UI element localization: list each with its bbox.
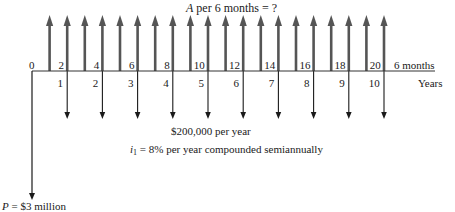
arrowhead-down-icon bbox=[381, 112, 387, 119]
arrowhead-up-icon bbox=[46, 15, 53, 26]
present-value-arrowhead-icon bbox=[29, 193, 35, 200]
receipts-title: A per 6 months = ? bbox=[186, 2, 277, 14]
year-tick-label: 6 bbox=[234, 77, 240, 89]
origin-label: 0 bbox=[29, 59, 35, 71]
arrowhead-up-icon bbox=[204, 15, 211, 26]
interest-rate-label: i1 = 8% per year compounded semiannually bbox=[130, 143, 323, 159]
arrowhead-up-icon bbox=[310, 15, 317, 26]
arrowhead-up-icon bbox=[328, 15, 335, 26]
arrowhead-up-icon bbox=[363, 15, 370, 26]
arrowhead-up-icon bbox=[169, 15, 176, 26]
arrowhead-up-icon bbox=[187, 15, 194, 26]
cash-flow-diagram: A per 6 months = ? 0 6 months Years $200… bbox=[0, 0, 455, 212]
year-tick-label: 9 bbox=[339, 77, 345, 89]
rate-text: = 8% per year compounded semiannually bbox=[137, 143, 323, 155]
year-tick-label: 3 bbox=[128, 77, 134, 89]
half-year-tick-label: 8 bbox=[164, 59, 170, 71]
arrowhead-down-icon bbox=[240, 112, 246, 119]
half-year-tick-label: 2 bbox=[59, 59, 65, 71]
arrowhead-up-icon bbox=[345, 15, 352, 26]
year-tick-label: 1 bbox=[58, 77, 64, 89]
year-tick-label: 4 bbox=[163, 77, 169, 89]
arrowhead-down-icon bbox=[311, 112, 317, 119]
expense-label: $200,000 per year bbox=[171, 125, 251, 137]
cash-flow-graphic bbox=[0, 0, 455, 212]
arrowhead-up-icon bbox=[81, 15, 88, 26]
arrowhead-up-icon bbox=[222, 15, 229, 26]
arrowhead-down-icon bbox=[100, 112, 106, 119]
year-tick-label: 10 bbox=[369, 77, 380, 89]
arrowhead-down-icon bbox=[276, 112, 282, 119]
present-variable: P bbox=[2, 200, 9, 212]
half-year-tick-label: 18 bbox=[335, 59, 346, 71]
year-tick-label: 8 bbox=[304, 77, 310, 89]
receipts-text: per 6 months = ? bbox=[193, 1, 277, 15]
arrowhead-up-icon bbox=[116, 15, 123, 26]
arrowhead-up-icon bbox=[99, 15, 106, 26]
present-value-label: P = $3 million bbox=[2, 200, 66, 212]
year-tick-label: 2 bbox=[93, 77, 99, 89]
arrowhead-down-icon bbox=[64, 112, 70, 119]
arrowhead-down-icon bbox=[135, 112, 141, 119]
lower-unit-label: Years bbox=[418, 77, 443, 89]
arrowhead-up-icon bbox=[292, 15, 299, 26]
present-text: = $3 million bbox=[9, 200, 66, 212]
arrowhead-down-icon bbox=[205, 112, 211, 119]
half-year-tick-label: 12 bbox=[229, 59, 240, 71]
arrowhead-up-icon bbox=[64, 15, 71, 26]
half-year-tick-label: 10 bbox=[194, 59, 205, 71]
half-year-tick-label: 16 bbox=[299, 59, 310, 71]
half-year-tick-label: 20 bbox=[370, 59, 381, 71]
arrowhead-down-icon bbox=[170, 112, 176, 119]
arrowhead-up-icon bbox=[257, 15, 264, 26]
arrowhead-up-icon bbox=[152, 15, 159, 26]
upper-unit-label: 6 months bbox=[394, 59, 435, 71]
half-year-tick-label: 4 bbox=[94, 59, 100, 71]
arrowhead-down-icon bbox=[346, 112, 352, 119]
arrowhead-up-icon bbox=[240, 15, 247, 26]
year-tick-label: 7 bbox=[269, 77, 275, 89]
arrowhead-up-icon bbox=[134, 15, 141, 26]
year-tick-label: 5 bbox=[198, 77, 204, 89]
half-year-tick-label: 14 bbox=[264, 59, 275, 71]
arrowhead-up-icon bbox=[275, 15, 282, 26]
arrowhead-up-icon bbox=[380, 15, 387, 26]
half-year-tick-label: 6 bbox=[129, 59, 135, 71]
